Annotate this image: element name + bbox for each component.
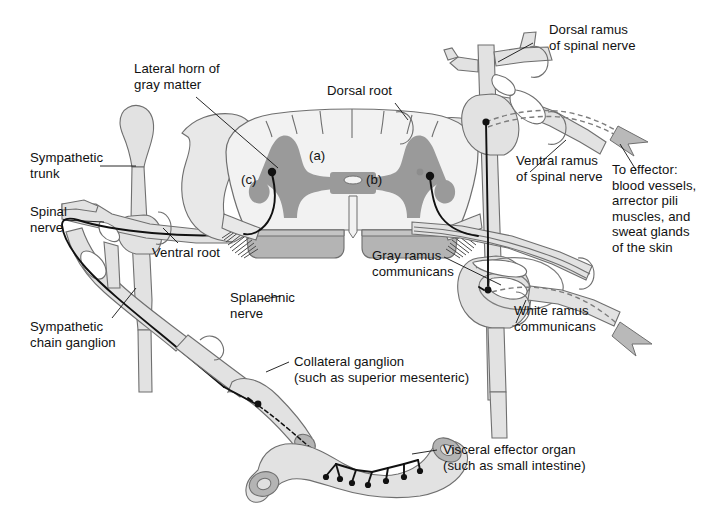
label-white-ramus: White ramus communicans [514, 303, 596, 334]
label-collateral-ganglion: Collateral ganglion (such as superior me… [294, 354, 469, 385]
label-sympathetic-trunk: Sympathetic trunk [30, 150, 103, 181]
label-dorsal-ramus: Dorsal ramus of spinal nerve [549, 22, 636, 53]
effector-arrow-upper [610, 126, 648, 156]
sympathetic-pathway-illustration: .tis { fill:#e2e2e2; stroke:#6f6f6f; str… [0, 0, 710, 516]
label-visceral-effector-organ: Visceral effector organ (such as small i… [443, 442, 586, 473]
leader-collateral-ganglion [266, 362, 289, 372]
label-splanchnic-nerve: Splanchnic nerve [230, 290, 295, 321]
label-spinal-nerve: Spinal nerve [30, 204, 67, 235]
marker-a: (a) [309, 148, 325, 163]
effector-arrow-lower [612, 322, 652, 356]
anatomical-figure: .tis { fill:#e2e2e2; stroke:#6f6f6f; str… [0, 0, 710, 516]
label-lateral-horn: Lateral horn of gray matter [134, 61, 220, 92]
marker-b: (b) [366, 172, 382, 187]
label-ventral-ramus: Ventral ramus of spinal nerve [516, 153, 603, 184]
neuron-soma-a [417, 169, 424, 176]
marker-c: (c) [241, 172, 256, 187]
label-gray-ramus: Gray ramus communicans [372, 248, 454, 279]
label-dorsal-root: Dorsal root [327, 83, 392, 99]
label-to-effector: To effector: blood vessels, arrector pil… [612, 162, 696, 256]
label-sympathetic-chain-ganglion: Sympathetic chain ganglion [30, 319, 116, 350]
label-ventral-root: Ventral root [152, 245, 220, 261]
